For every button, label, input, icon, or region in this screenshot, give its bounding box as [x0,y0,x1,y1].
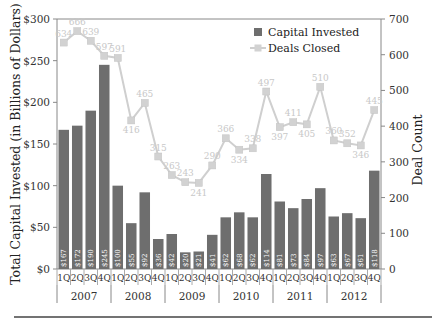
deals-value-label: 334 [231,155,248,165]
bar-value-label: $190 [87,249,95,267]
year-label: 2009 [179,290,206,302]
y-tick-label: $0 [37,263,50,275]
bar-value-label: $97 [317,254,325,267]
chart: $167$172$190$245$100$55$92$36$42$20$21$4… [0,0,435,322]
bar-value-label: $81 [276,254,284,267]
x-tick-label: 4Q [206,273,219,283]
y2-tick-label: 100 [389,227,409,239]
deals-value-label: 290 [204,151,221,161]
x-tick-label: 2Q [125,273,138,283]
bar-value-label: $84 [303,253,311,267]
x-tick-label: 1Q [273,273,286,283]
deals-value-label: 634 [55,29,72,39]
deals-point [87,37,94,44]
y-tick-label: $200 [23,96,50,108]
x-tick-label: 4Q [314,273,327,283]
deals-value-label: 411 [285,108,302,118]
deals-value-label: 666 [69,17,86,27]
year-label: 2008 [125,290,152,302]
y2-tick-label: 600 [389,49,409,61]
x-tick-label: 1Q [57,273,70,283]
deals-point [263,88,270,95]
deals-point [222,135,229,142]
x-tick-label: 2Q [233,273,246,283]
bar-value-label: $63 [330,254,338,267]
year-label: 2010 [233,290,260,302]
deals-value-label: 346 [352,150,369,160]
bar [99,65,110,269]
x-tick-label: 2Q [179,273,192,283]
bar-value-label: $41 [209,254,217,267]
deals-point [371,107,378,114]
bar-value-label: $100 [114,249,122,267]
deals-point [276,124,283,131]
bar-value-label: $114 [263,249,271,267]
x-tick-label: 1Q [327,273,340,283]
deals-point [195,179,202,186]
deals-point [74,28,81,35]
legend-line-label: Deals Closed [268,42,340,55]
x-tick-label: 3Q [138,273,151,283]
y-axis-label: Total Capital Invested (in Billions of D… [8,3,23,285]
deals-point [141,99,148,106]
x-tick-label: 3Q [192,273,205,283]
bar-value-label: $21 [195,254,203,267]
legend-line-marker [255,45,262,52]
deals-value-label: 497 [258,78,275,88]
y2-tick-label: 400 [389,120,409,132]
bar [58,130,69,269]
x-tick-label: 4Q [368,273,381,283]
y-tick-label: $100 [23,180,50,192]
y2-tick-label: 700 [389,13,409,25]
deals-point [236,146,243,153]
legend: Capital InvestedDeals Closed [250,26,359,55]
y-tick-label: $250 [23,55,50,67]
deals-point [101,52,108,59]
bar-value-label: $55 [128,254,136,267]
deals-value-label: 352 [339,129,356,139]
bar-value-label: $67 [344,254,352,267]
x-tick-label: 3Q [354,273,367,283]
x-tick-label: 2Q [287,273,300,283]
deals-value-label: 465 [136,89,153,99]
bar-value-label: $62 [249,254,257,267]
x-tick-label: 4Q [260,273,273,283]
x-tick-label: 3Q [246,273,259,283]
deals-value-label: 416 [123,125,140,135]
bar-value-label: $245 [101,249,109,267]
deals-value-label: 338 [244,134,261,144]
deals-point [60,39,67,46]
year-label: 2012 [341,290,368,302]
y2-tick-label: 500 [389,84,409,96]
deals-point [303,121,310,128]
bar-value-label: $20 [182,254,190,267]
bar-value-label: $167 [60,249,68,267]
deals-value-label: 445 [366,96,383,106]
deals-point [249,145,256,152]
legend-bar-label: Capital Invested [268,26,359,39]
deals-point [168,172,175,179]
y2-tick-label: 300 [389,156,409,168]
y2-tick-label: 200 [389,192,409,204]
bar-value-label: $61 [357,254,365,267]
deals-point [357,142,364,149]
year-label: 2007 [71,290,98,302]
bar-value-label: $62 [222,254,230,267]
x-tick-label: 1Q [219,273,232,283]
deals-value-label: 405 [298,129,315,139]
bar-value-label: $73 [290,254,298,267]
deals-value-label: 315 [150,143,167,153]
bar-value-label: $118 [371,249,379,267]
x-tick-label: 2Q [71,273,84,283]
bar-value-label: $36 [155,253,163,267]
bars [58,65,379,269]
deals-value-label: 243 [177,168,194,178]
x-tick-label: 2Q [341,273,354,283]
deals-value-label: 366 [217,124,234,134]
bar-value-label: $68 [236,254,244,267]
legend-bar-swatch [254,28,262,36]
y-tick-label: $50 [30,221,50,233]
deals-value-label: 241 [190,188,207,198]
year-label: 2011 [287,290,314,302]
deals-value-label: 397 [271,132,288,142]
